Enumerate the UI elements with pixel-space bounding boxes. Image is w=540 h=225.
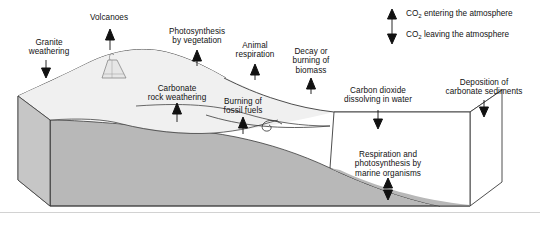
arrow-animal-respiration xyxy=(251,64,260,80)
legend-arrow-up-icon xyxy=(388,9,397,26)
label-decay-burning-biomass: Decay or burning of biomass xyxy=(280,47,342,75)
legend-co2-text-2: CO xyxy=(406,30,418,39)
carbon-cycle-figure: Granite weathering Volcanoes Photosynthe… xyxy=(0,0,540,225)
legend-co2-subscript-2: 2 xyxy=(418,34,421,40)
legend-item-co2-entering: CO2 entering the atmosphere xyxy=(406,9,513,19)
label-co2-dissolving-in-water: Carbon dioxide dissolving in water xyxy=(330,86,426,105)
legend-entering-text: entering the atmosphere xyxy=(422,9,513,18)
legend-item-co2-leaving: CO2 leaving the atmosphere xyxy=(406,30,509,40)
legend-arrows xyxy=(388,9,397,44)
legend-co2-text: CO xyxy=(406,9,418,18)
legend-leaving-text: leaving the atmosphere xyxy=(422,30,509,39)
label-animal-respiration: Animal respiration xyxy=(222,41,288,60)
label-volcanoes: Volcanoes xyxy=(78,13,140,22)
label-marine-organisms: Respiration and photosynthesis by marine… xyxy=(336,150,440,178)
arrow-granite-weathering xyxy=(42,60,51,78)
label-granite-weathering: Granite weathering xyxy=(18,38,80,57)
arrow-volcanoes xyxy=(106,29,115,50)
legend-co2-subscript: 2 xyxy=(418,13,421,19)
label-burning-fossil-fuels: Burning of fossil fuels xyxy=(207,97,279,116)
label-carbonate-deposition: Deposition of carbonate sediments xyxy=(432,78,536,97)
arrow-decay-biomass xyxy=(307,78,316,94)
legend-arrow-down-icon xyxy=(388,26,397,44)
bottom-divider xyxy=(0,212,540,213)
